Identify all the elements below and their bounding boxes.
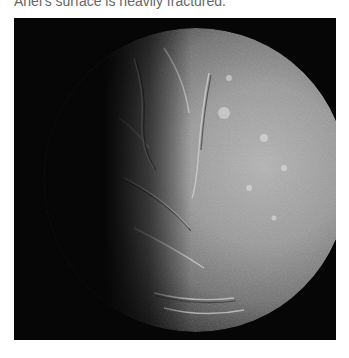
- moon-photo: [14, 18, 336, 340]
- moon-illustration: [14, 18, 336, 340]
- caption-text: Ariel's surface is heavily fractured.: [14, 0, 226, 9]
- page: Ariel's surface is heavily fractured.: [0, 0, 349, 358]
